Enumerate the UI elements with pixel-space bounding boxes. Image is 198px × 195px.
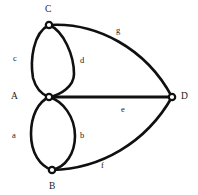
vertex-D-dot xyxy=(169,94,175,100)
edge-d-path xyxy=(49,25,74,97)
vertex-A-dot xyxy=(46,94,52,100)
edge-label-a: a xyxy=(12,131,16,140)
edge-c-path xyxy=(32,25,49,97)
edge-label-e: e xyxy=(121,105,125,114)
vertex-label-B: B xyxy=(49,182,55,192)
edge-f-path xyxy=(52,97,172,170)
vertex-B-dot xyxy=(49,167,55,173)
edge-label-g: g xyxy=(116,26,120,35)
vertex-label-A: A xyxy=(11,92,18,102)
edge-label-d: d xyxy=(80,56,84,65)
edge-b-path xyxy=(49,97,75,170)
vertex-label-C: C xyxy=(45,5,51,15)
graph-diagram: C A B D c d g a b e f xyxy=(0,0,198,195)
edge-label-c: c xyxy=(13,54,17,63)
edge-label-f: f xyxy=(101,161,104,170)
edge-label-b: b xyxy=(80,131,84,140)
vertex-C-dot xyxy=(46,22,52,28)
edge-a-path xyxy=(31,97,52,170)
vertex-label-D: D xyxy=(181,92,188,102)
graph-canvas xyxy=(0,0,198,195)
